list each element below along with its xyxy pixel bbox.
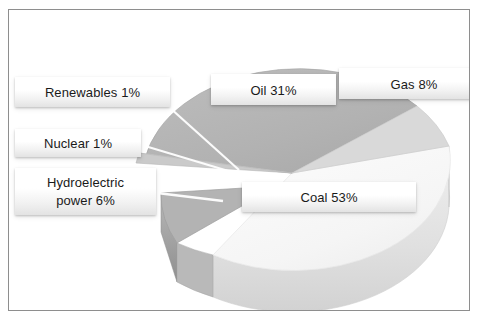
slice-label-gas[interactable]: Gas 8%	[339, 68, 470, 99]
chart-frame: Renewables 1% Nuclear 1% Hydroelectric p…	[8, 9, 470, 311]
slice-label-hydroelectric[interactable]: Hydroelectric power 6%	[15, 168, 156, 215]
slice-label-coal[interactable]: Coal 53%	[242, 182, 416, 212]
hydroelectric-rim-wall	[177, 243, 213, 297]
slice-label-renewables[interactable]: Renewables 1%	[15, 77, 170, 107]
slice-label-oil[interactable]: Oil 31%	[211, 74, 336, 105]
pie-chart[interactable]: Renewables 1% Nuclear 1% Hydroelectric p…	[9, 10, 469, 310]
slice-label-nuclear[interactable]: Nuclear 1%	[15, 129, 141, 157]
pie-chart-svg[interactable]	[9, 10, 469, 310]
